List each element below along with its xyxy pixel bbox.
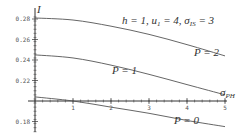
x-tick-label: 4 <box>185 104 189 111</box>
x-tick-label: 5 <box>223 104 227 111</box>
y-tick-label: 0.18 <box>16 118 31 125</box>
chart-plot: 0.280.260.240.220.1812345 I h = 1, u1 = … <box>0 0 250 137</box>
label-p2: P = 2 <box>193 46 219 58</box>
parameters-annotation: h = 1, u1 = 4, σIS = 3 <box>122 14 215 28</box>
x-tick-label: 1 <box>71 104 75 111</box>
label-p1: P = 1 <box>111 64 137 76</box>
y-tick-label: 0.26 <box>16 36 31 43</box>
y-tick-label: 0.28 <box>16 15 31 22</box>
y-tick-label: 0.24 <box>16 56 31 63</box>
label-p0: P = 0 <box>173 114 199 126</box>
y-axis-label: I <box>36 3 42 15</box>
y-tick-label: 0.22 <box>16 77 31 84</box>
x-tick-label: 3 <box>147 104 151 111</box>
x-axis-label: σPH <box>220 86 236 100</box>
